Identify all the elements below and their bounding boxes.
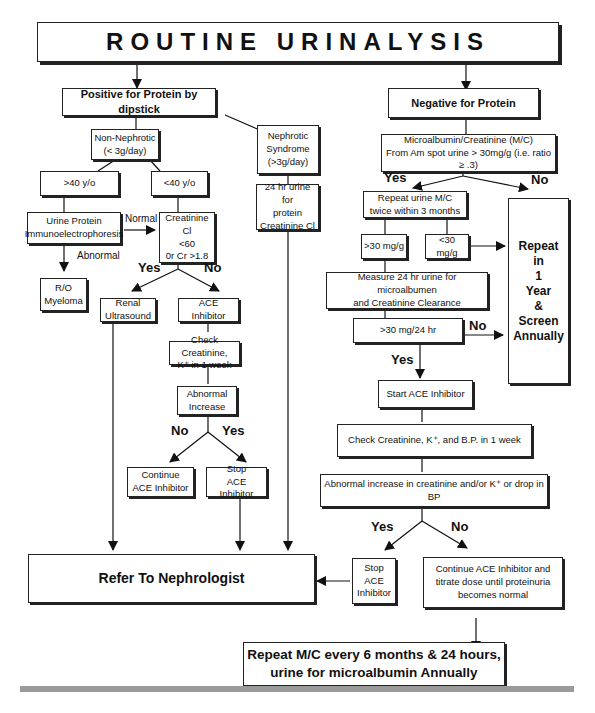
repeat-final-box: Repeat M/C every 6 months & 24 hours, ur… bbox=[243, 642, 505, 686]
footer-rule bbox=[20, 686, 574, 692]
nephrotic-label: Nephrotic Syndrome (>3g/day) bbox=[266, 130, 309, 168]
continue-titrate-box: Continue ACE Inhibitor and titrate dose … bbox=[423, 557, 563, 608]
microalbumin-box: Microalbumin/Creatinine (M/C) From Am sp… bbox=[381, 134, 556, 172]
yes-label-creat: Yes bbox=[138, 260, 160, 275]
renal-ultrasound-box: Renal Ultrasound bbox=[100, 298, 156, 322]
non-nephrotic-box: Non-Nephrotic (< 3g/day) bbox=[91, 129, 159, 160]
repeat-mc-box: Repeat urine M/C twice within 3 months bbox=[363, 191, 467, 218]
abnormal-increase-box: Abnormal Increase bbox=[177, 386, 237, 415]
lt30-label: <30 mg/g bbox=[428, 234, 466, 260]
abnormal-increase-label: Abnormal Increase bbox=[187, 388, 228, 414]
negative-protein-label: Negative for Protein bbox=[411, 96, 516, 111]
under-40-box: <40 y/o bbox=[151, 171, 208, 196]
yes-label-bp: Yes bbox=[371, 519, 393, 534]
no-label-mc: No bbox=[531, 172, 548, 187]
continue-titrate-label: Continue ACE Inhibitor and titrate dose … bbox=[436, 563, 551, 601]
microalbumin-label: Microalbumin/Creatinine (M/C) From Am sp… bbox=[384, 134, 553, 172]
repeat-year-label: Repeat in 1 Year & Screen Annually bbox=[513, 239, 564, 344]
yes-label-24hr: Yes bbox=[391, 352, 413, 367]
urine-24hr-box: 24 hr urine for protein Creatinine Cl bbox=[256, 184, 319, 230]
title-box: ROUTINE URINALYSIS bbox=[37, 22, 559, 62]
gt30-box: >30 mg/g bbox=[361, 234, 407, 259]
over-40-box: >40 y/o bbox=[40, 171, 119, 196]
check-bp-box: Check Creatinine, K⁺, and B.P. in 1 week bbox=[337, 424, 532, 457]
no-label-abn: No bbox=[171, 423, 188, 438]
repeat-year-box: Repeat in 1 Year & Screen Annually bbox=[508, 198, 569, 384]
continue-ace-box: Continue ACE Inhibitor bbox=[127, 467, 194, 497]
stop-ace-label: Stop ACE Inhibitor bbox=[209, 463, 264, 501]
check-bp-label: Check Creatinine, K⁺, and B.P. in 1 week bbox=[348, 434, 521, 447]
gt30-24hr-box: >30 mg/24 hr bbox=[353, 318, 463, 343]
creatinine-cl-box: Creatinine Cl <60 0r Cr >1.8 bbox=[159, 212, 215, 263]
renal-ultrasound-label: Renal Ultrasound bbox=[105, 297, 151, 323]
gt30-24hr-label: >30 mg/24 hr bbox=[380, 324, 436, 337]
myeloma-label: R/O Myeloma bbox=[44, 282, 83, 308]
lt30-box: <30 mg/g bbox=[425, 234, 469, 259]
repeat-mc-label: Repeat urine M/C twice within 3 months bbox=[370, 192, 460, 218]
stop-ace-box: Stop ACE Inhibitor bbox=[206, 467, 267, 497]
ace-inhibitor-label: ACE Inhibitor bbox=[192, 297, 226, 323]
refer-nephrologist-label: Refer To Nephrologist bbox=[99, 569, 245, 588]
myeloma-box: R/O Myeloma bbox=[40, 278, 87, 311]
urine-24hr-label: 24 hr urine for protein Creatinine Cl bbox=[259, 181, 316, 232]
abnormal-label: Abnormal bbox=[77, 250, 120, 261]
yes-label-abn: Yes bbox=[222, 423, 244, 438]
no-label-24hr: No bbox=[469, 318, 486, 333]
nephrotic-box: Nephrotic Syndrome (>3g/day) bbox=[257, 125, 319, 174]
continue-ace-label: Continue ACE Inhibitor bbox=[133, 469, 189, 495]
normal-label: Normal bbox=[125, 213, 157, 224]
abnormal-bp-label: Abnormal increase in creatinine and/or K… bbox=[323, 478, 545, 504]
yes-label-mc: Yes bbox=[384, 170, 406, 185]
positive-protein-label: Positive for Protein by dipstick bbox=[65, 87, 213, 117]
immunoelectrophoresis-box: Urine Protein Immunoelectrophoresis bbox=[27, 212, 121, 244]
gt30-label: >30 mg/g bbox=[364, 240, 404, 253]
under-40-label: <40 y/o bbox=[164, 177, 195, 190]
measure-24hr-box: Measure 24 hr urine for microalbumen and… bbox=[326, 272, 488, 309]
immunoelectrophoresis-label: Urine Protein Immunoelectrophoresis bbox=[25, 215, 124, 241]
creatinine-cl-label: Creatinine Cl <60 0r Cr >1.8 bbox=[162, 212, 212, 263]
start-ace-label: Start ACE Inhibitor bbox=[386, 388, 464, 401]
non-nephrotic-label: Non-Nephrotic (< 3g/day) bbox=[94, 132, 155, 158]
check-creatinine-label: Check Creatinine, K⁺ in 1 week bbox=[172, 334, 237, 372]
stop-ace-right-label: Stop ACE Inhibitor bbox=[357, 562, 391, 600]
no-label-creat: No bbox=[204, 260, 221, 275]
refer-nephrologist-box: Refer To Nephrologist bbox=[28, 554, 315, 603]
page-title: ROUTINE URINALYSIS bbox=[106, 26, 490, 58]
abnormal-bp-box: Abnormal increase in creatinine and/or K… bbox=[320, 474, 548, 507]
no-label-bp: No bbox=[451, 519, 468, 534]
negative-protein-box: Negative for Protein bbox=[388, 88, 539, 118]
stop-ace-right-box: Stop ACE Inhibitor bbox=[352, 558, 396, 604]
measure-24hr-label: Measure 24 hr urine for microalbumen and… bbox=[329, 271, 485, 309]
over-40-label: >40 y/o bbox=[64, 177, 95, 190]
positive-protein-box: Positive for Protein by dipstick bbox=[62, 88, 216, 116]
check-creatinine-box: Check Creatinine, K⁺ in 1 week bbox=[169, 341, 240, 365]
ace-inhibitor-box: ACE Inhibitor bbox=[178, 298, 239, 322]
repeat-final-label: Repeat M/C every 6 months & 24 hours, ur… bbox=[247, 646, 501, 681]
start-ace-box: Start ACE Inhibitor bbox=[378, 380, 473, 408]
